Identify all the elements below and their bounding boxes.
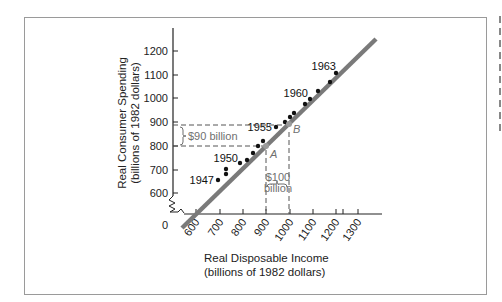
y-tick-600: 600: [150, 187, 168, 199]
x-tick-800: 800: [228, 216, 248, 238]
label-1955: 1955: [248, 121, 272, 133]
y-tick-800: 800: [150, 140, 168, 152]
point: [251, 151, 255, 155]
year-labels: 1947 1950 1955 1960 1963: [190, 60, 336, 186]
svg-text:Real Consumer Spending: Real Consumer Spending: [116, 57, 128, 189]
axis-break-icon: [169, 196, 184, 213]
x-tick-900: 900: [251, 216, 271, 238]
svg-text:Real Disposable Income: Real Disposable Income: [204, 252, 329, 264]
data-points: [216, 71, 338, 182]
point: [303, 102, 307, 106]
label-1950: 1950: [214, 152, 238, 164]
origin-label: 0: [162, 219, 168, 231]
point: [261, 139, 265, 143]
y-tick-1200: 1200: [144, 45, 168, 57]
point-b-label: B: [293, 123, 300, 135]
x-tick-labels: 600 700 800 900 1000 1100 1200 1300: [181, 216, 363, 243]
x-tick-1000: 1000: [272, 216, 296, 243]
x-tick-1300: 1300: [340, 216, 364, 243]
point-a-label: A: [269, 148, 277, 160]
y-tick-1100: 1100: [144, 69, 168, 81]
point-1955: [274, 125, 278, 129]
point: [328, 80, 332, 84]
point: [245, 158, 249, 162]
point-1950: [238, 161, 242, 165]
svg-text:(billions of 1982 dollars): (billions of 1982 dollars): [204, 266, 326, 278]
delta-y-label: $90 billion: [188, 130, 238, 142]
point: [256, 144, 260, 148]
cropped-adjacent-text: [498, 16, 502, 156]
y-axis-title: Real Consumer Spending (billions of 1982…: [116, 57, 141, 189]
consumption-chart: 1200 1100 1000 900 800 700 600 0 600 700…: [0, 0, 502, 302]
label-1947: 1947: [190, 174, 214, 186]
x-tick-1200: 1200: [318, 216, 342, 243]
point-1960: [308, 97, 312, 101]
point: [224, 172, 228, 176]
point-b-marker: [286, 121, 292, 127]
delta-y-brace-icon: [180, 127, 186, 145]
y-tick-700: 700: [150, 164, 168, 176]
point-a-marker: [263, 143, 269, 149]
x-ticks: [196, 209, 358, 214]
x-tick-1100: 1100: [295, 216, 318, 242]
y-tick-1000: 1000: [144, 92, 168, 104]
svg-text:(billions of 1982 dollars): (billions of 1982 dollars): [129, 62, 141, 184]
x-axis-title: Real Disposable Income (billions of 1982…: [204, 252, 329, 278]
point: [224, 167, 228, 171]
x-tick-700: 700: [205, 216, 225, 238]
y-axis: [169, 28, 184, 213]
point-1947: [216, 178, 220, 182]
y-ticks: [173, 51, 178, 193]
y-tick-900: 900: [150, 116, 168, 128]
point: [288, 115, 292, 119]
point: [292, 111, 296, 115]
point: [316, 89, 320, 93]
delta-x-label-billion: billion: [264, 182, 292, 194]
y-tick-labels: 1200 1100 1000 900 800 700 600 0: [144, 45, 168, 231]
label-1960: 1960: [284, 87, 308, 99]
label-1963: 1963: [312, 60, 336, 72]
